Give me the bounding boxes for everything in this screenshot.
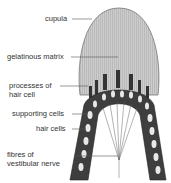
label-supporting-cells: supporting cells: [12, 110, 64, 118]
label-cupula: cupula: [45, 15, 67, 23]
label-fibres-line2: vestibular nerve: [7, 160, 60, 168]
label-processes-line1: processes of: [9, 82, 52, 90]
cupula-diagram: cupula gelatinous matrix processes of ha…: [0, 0, 171, 183]
nerve-fibres: [103, 102, 137, 178]
label-fibres-line1: fibres of: [7, 151, 34, 159]
label-processes-line2: hair cell: [9, 91, 35, 99]
label-gelatinous-matrix: gelatinous matrix: [7, 53, 64, 61]
label-hair-cells: hair cells: [36, 125, 66, 133]
